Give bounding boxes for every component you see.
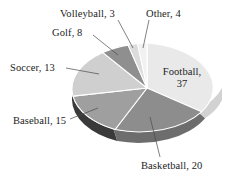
slice-label-other: Other, 4 [146, 8, 181, 20]
pie-chart-figure: Volleyball, 3 Other, 4 Golf, 8 Soccer, 1… [0, 0, 231, 181]
slice-label-football-line1: Football, [159, 66, 205, 78]
leader-line-volleyball [118, 20, 133, 48]
slice-label-volleyball: Volleyball, 3 [60, 8, 115, 20]
slice-label-basketball: Basketball, 20 [141, 160, 202, 172]
slice-label-golf: Golf, 8 [52, 27, 82, 39]
slice-label-football: Football, 37 [159, 66, 205, 89]
pie-chart-graphic [0, 0, 231, 181]
slice-label-baseball: Baseball, 15 [13, 115, 66, 127]
slice-label-football-line2: 37 [159, 78, 205, 90]
slice-label-soccer: Soccer, 13 [10, 62, 55, 74]
